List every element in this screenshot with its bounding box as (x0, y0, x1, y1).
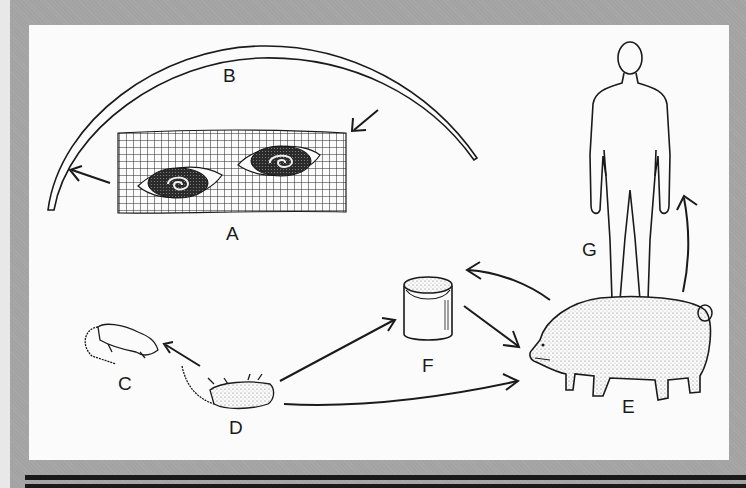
life-cycle-diagram: B A G F C (0, 0, 746, 488)
node-f-garbage-can: F (404, 277, 452, 376)
node-g-human: G (582, 42, 670, 300)
arrows-lower (164, 262, 550, 405)
arrow-d-to-f (280, 320, 394, 381)
label-e: E (622, 396, 635, 417)
arrow-a-to-b (72, 170, 110, 183)
node-a-muscle-tissue: A (118, 130, 346, 244)
arrow-e-to-f (468, 270, 550, 300)
label-f: F (422, 355, 434, 376)
label-a: A (226, 223, 239, 244)
arrow-d-to-e (284, 381, 518, 405)
arrow-b-to-a (354, 110, 378, 130)
label-c: C (118, 373, 132, 394)
node-d-dead-rat: D (182, 366, 274, 438)
arrow-e-to-g (677, 196, 697, 292)
arrow-f-to-e (464, 306, 518, 346)
label-g: G (582, 239, 597, 260)
arrow-d-to-c (166, 345, 200, 366)
label-b: B (223, 65, 236, 86)
node-c-rat: C (85, 324, 158, 394)
node-e-pig: E (530, 297, 712, 418)
label-d: D (229, 417, 243, 438)
